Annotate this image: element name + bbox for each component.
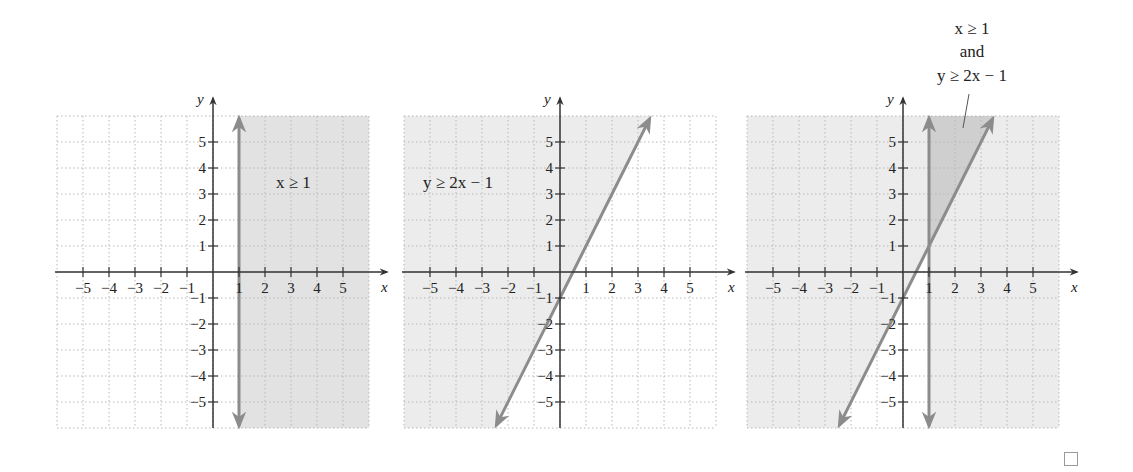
x-tick-label: −4 [791,280,807,296]
chart-canvas: xy−5−4−3−2−11234554321−1−2−3−4−5 xy−5−4−… [0,0,1133,472]
x-tick-label: −3 [127,280,143,296]
x-axis-name: x [727,279,735,295]
x-tick-label: 5 [686,280,694,296]
y-tick-label: −2 [537,316,553,332]
y-tick-label: 3 [199,186,207,202]
y-tick-label: 4 [889,160,897,176]
x-tick-label: 4 [660,280,668,296]
y-tick-label: −1 [537,290,553,306]
y-tick-label: −2 [190,316,206,332]
x-tick-label: 3 [634,280,642,296]
x-tick-label: −3 [474,280,490,296]
y-tick-label: 2 [889,212,897,228]
x-tick-label: 2 [951,280,959,296]
y-tick-label: 4 [199,160,207,176]
x-tick-label: −5 [765,280,781,296]
y-tick-label: −5 [880,394,896,410]
y-tick-label: −1 [880,290,896,306]
x-axis-name: x [380,279,388,295]
x-tick-label: 5 [339,280,347,296]
x-axis-name: x [1070,279,1078,295]
y-tick-label: −2 [880,316,896,332]
y-tick-label: −1 [190,290,206,306]
y-tick-label: 2 [546,212,554,228]
x-tick-label: −5 [422,280,438,296]
y-tick-label: 4 [546,160,554,176]
graph3-label-line3: y ≥ 2x − 1 [937,66,1007,85]
x-tick-label: 3 [977,280,985,296]
x-tick-label: 1 [235,280,243,296]
x-tick-label: −4 [448,280,464,296]
y-tick-label: −3 [537,342,553,358]
graph2-inequality-label: y ≥ 2x − 1 [423,173,493,192]
x-tick-label: 1 [925,280,933,296]
graph3-label-line1: x ≥ 1 [955,19,990,38]
y-tick-label: 5 [199,134,207,150]
x-tick-label: −4 [101,280,117,296]
y-tick-label: 3 [546,186,554,202]
y-tick-label: −5 [537,394,553,410]
graph1-inequality-label: x ≥ 1 [276,173,311,192]
y-tick-label: 5 [889,134,897,150]
x-tick-label: 3 [287,280,295,296]
x-tick-label: 1 [582,280,590,296]
y-axis-name: y [195,91,204,107]
y-tick-label: −3 [190,342,206,358]
y-tick-label: 3 [889,186,897,202]
graph-y-ge-2x-minus-1: xy−5−4−3−2−11234554321−1−2−3−4−5 [402,91,735,428]
y-tick-label: 1 [546,238,554,254]
graph-x-ge-1: xy−5−4−3−2−11234554321−1−2−3−4−5 [55,91,388,428]
y-tick-label: 1 [889,238,897,254]
y-tick-label: 2 [199,212,207,228]
x-tick-label: −2 [843,280,859,296]
y-tick-label: 5 [546,134,554,150]
y-tick-label: −4 [190,368,206,384]
x-tick-label: −5 [75,280,91,296]
x-tick-label: −2 [153,280,169,296]
x-tick-label: −3 [817,280,833,296]
y-tick-label: 1 [199,238,207,254]
corner-checkbox-icon [1064,452,1078,466]
y-tick-label: −4 [880,368,896,384]
x-tick-label: 2 [261,280,269,296]
x-tick-label: 5 [1029,280,1037,296]
graph3-label-line2: and [960,42,985,61]
y-tick-label: −3 [880,342,896,358]
graph-intersection: xy−5−4−3−2−11234554321−1−2−3−4−5 [745,91,1078,428]
x-tick-label: 2 [608,280,616,296]
x-tick-label: 4 [313,280,321,296]
y-tick-label: −5 [190,394,206,410]
x-tick-label: −2 [500,280,516,296]
x-tick-label: 4 [1003,280,1011,296]
y-tick-label: −4 [537,368,553,384]
y-axis-name: y [885,91,894,107]
y-axis-name: y [542,91,551,107]
